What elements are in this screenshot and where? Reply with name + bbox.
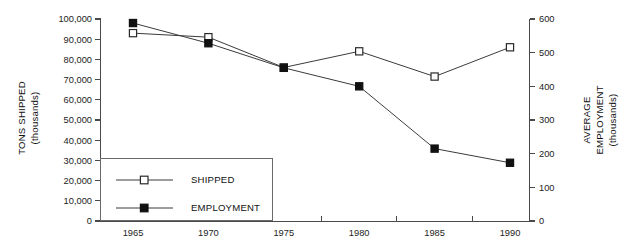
legend-label-employment: EMPLOYMENT bbox=[191, 202, 260, 213]
left-tick-label: 0 bbox=[87, 216, 92, 226]
right-axis-title-line3: (thousands) bbox=[607, 94, 618, 147]
x-tick-label: 1965 bbox=[123, 228, 144, 238]
data-point-shipped bbox=[506, 44, 513, 51]
right-tick-label: 200 bbox=[539, 149, 555, 159]
left-tick-label: 10,000 bbox=[64, 196, 92, 206]
left-axis-title: TONS SHIPPED (thousands) bbox=[16, 81, 40, 155]
left-tick-label: 30,000 bbox=[64, 156, 92, 166]
data-point-shipped bbox=[129, 30, 136, 37]
left-axis-title-line2: (thousands) bbox=[29, 92, 40, 145]
data-point-shipped bbox=[431, 73, 438, 80]
left-tick-label: 80,000 bbox=[64, 55, 92, 65]
left-tick-label: 90,000 bbox=[64, 35, 92, 45]
right-tick-label: 400 bbox=[539, 82, 555, 92]
series-employment bbox=[129, 19, 513, 166]
data-point-employment bbox=[280, 64, 287, 71]
chart-container: 010,00020,00030,00040,00050,00060,00070,… bbox=[0, 0, 632, 250]
series-line-shipped bbox=[133, 33, 510, 76]
legend-label-shipped: SHIPPED bbox=[191, 174, 235, 185]
left-tick-label: 70,000 bbox=[64, 75, 92, 85]
right-axis-title: AVERAGE EMPLOYMENT (thousands) bbox=[581, 85, 618, 154]
legend-marker-employment bbox=[140, 204, 148, 212]
x-tick-label: 1980 bbox=[349, 228, 370, 238]
left-tick-label: 50,000 bbox=[64, 115, 92, 125]
x-tick-label: 1975 bbox=[273, 228, 294, 238]
right-axis-ticks: 0100200300400500600 bbox=[530, 14, 555, 226]
chart-legend: SHIPPEDEMPLOYMENT bbox=[101, 159, 273, 221]
left-tick-label: 100,000 bbox=[58, 14, 92, 24]
x-tick-label: 1985 bbox=[424, 228, 445, 238]
left-tick-label: 20,000 bbox=[64, 176, 92, 186]
data-point-employment bbox=[129, 19, 136, 26]
right-tick-label: 500 bbox=[539, 48, 555, 58]
right-tick-label: 0 bbox=[539, 216, 544, 226]
x-tick-label: 1990 bbox=[500, 228, 521, 238]
left-tick-label: 40,000 bbox=[64, 136, 92, 146]
right-axis-title-line2: EMPLOYMENT bbox=[594, 85, 605, 154]
right-tick-label: 600 bbox=[539, 14, 555, 24]
line-chart: 010,00020,00030,00040,00050,00060,00070,… bbox=[0, 0, 632, 250]
right-tick-label: 300 bbox=[539, 115, 555, 125]
series-layer bbox=[129, 19, 513, 166]
x-tick-label: 1970 bbox=[198, 228, 219, 238]
right-axis-title-line1: AVERAGE bbox=[581, 96, 592, 143]
legend-marker-shipped bbox=[140, 176, 148, 184]
series-line-employment bbox=[133, 23, 510, 163]
data-point-shipped bbox=[356, 48, 363, 55]
left-axis-ticks: 010,00020,00030,00040,00050,00060,00070,… bbox=[58, 14, 100, 226]
left-tick-label: 60,000 bbox=[64, 95, 92, 105]
data-point-employment bbox=[506, 159, 513, 166]
data-point-employment bbox=[356, 83, 363, 90]
left-axis-title-line1: TONS SHIPPED bbox=[16, 81, 27, 155]
right-tick-label: 100 bbox=[539, 183, 555, 193]
data-point-employment bbox=[205, 40, 212, 47]
data-point-employment bbox=[431, 145, 438, 152]
